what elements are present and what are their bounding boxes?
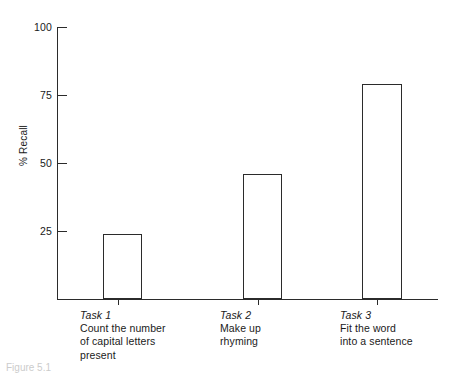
category-title: Task 3 [340, 309, 455, 322]
x-tick-task-2 [258, 300, 259, 305]
y-tick-mark [58, 27, 67, 28]
y-tick-100: 100 [0, 27, 67, 28]
figure-caption: Figure 5.1 [6, 362, 446, 374]
y-tick-label: 50 [6, 158, 52, 168]
category-label-task-2: Task 2 Make up rhyming [220, 309, 330, 349]
y-tick-mark [58, 163, 67, 164]
bar-task-2 [243, 174, 282, 299]
y-tick-mark [58, 231, 67, 232]
category-title: Task 2 [220, 309, 330, 322]
y-tick-label: 25 [6, 226, 52, 236]
x-tick-task-1 [118, 300, 119, 305]
bar-task-3 [362, 84, 402, 299]
y-tick-75: 75 [0, 95, 67, 96]
category-label-task-3: Task 3 Fit the word into a sentence [340, 309, 455, 349]
category-description: Make up rhyming [220, 322, 330, 348]
bar-task-1 [103, 234, 142, 299]
y-tick-50: 50 [0, 163, 67, 164]
category-description: Fit the word into a sentence [340, 322, 455, 348]
category-description: Count the number of capital letters pres… [80, 322, 190, 362]
y-tick-label: 75 [6, 90, 52, 100]
x-axis-line [57, 299, 438, 300]
y-tick-label: 100 [6, 22, 52, 32]
y-tick-25: 25 [0, 231, 67, 232]
category-label-task-1: Task 1 Count the number of capital lette… [80, 309, 190, 362]
y-axis-title: % Recall [18, 111, 29, 181]
x-tick-task-3 [377, 300, 378, 305]
category-title: Task 1 [80, 309, 190, 322]
y-tick-mark [58, 95, 67, 96]
